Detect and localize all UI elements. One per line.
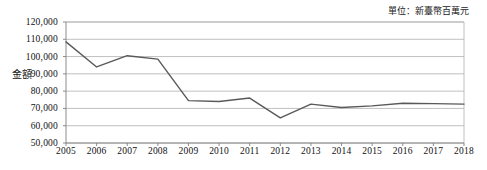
- line-chart-svg: [0, 0, 487, 170]
- gridlines: [66, 22, 464, 143]
- x-axis-tick-label: 2017: [423, 146, 443, 156]
- x-axis-tick-label: 2014: [332, 146, 352, 156]
- x-axis-tick-label: 2010: [209, 146, 229, 156]
- x-axis-tick-label: 2016: [393, 146, 413, 156]
- x-axis-tick-label: 2007: [117, 146, 137, 156]
- x-axis-tick-label: 2009: [179, 146, 199, 156]
- x-axis-tick-label: 2015: [362, 146, 382, 156]
- chart-figure: 單位：新臺幣百萬元 金額 50,00060,00070,00080,00090,…: [0, 0, 487, 170]
- x-axis-tick-label: 2008: [148, 146, 168, 156]
- x-axis-tick-label: 2005: [56, 146, 76, 156]
- x-axis-tick-label: 2011: [240, 146, 259, 156]
- series-line: [66, 42, 464, 118]
- x-axis-tick-label: 2006: [87, 146, 107, 156]
- x-axis-tick-label: 2012: [270, 146, 290, 156]
- plot-area: [0, 0, 487, 170]
- x-axis-tick-label: 2013: [301, 146, 321, 156]
- data-series-line: [66, 42, 464, 118]
- x-axis-tick-label: 2018: [454, 146, 474, 156]
- plot-frame: [63, 22, 464, 143]
